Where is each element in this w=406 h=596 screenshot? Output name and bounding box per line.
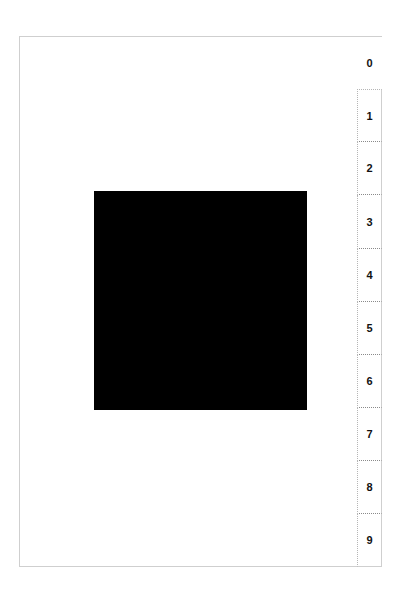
- tab-label: 7: [366, 428, 372, 440]
- tab-6[interactable]: 6: [357, 355, 382, 408]
- tab-2[interactable]: 2: [357, 142, 382, 195]
- tab-label: 8: [366, 481, 372, 493]
- tab-5[interactable]: 5: [357, 302, 382, 355]
- tab-label: 3: [366, 216, 372, 228]
- tab-7[interactable]: 7: [357, 408, 382, 461]
- tab-4[interactable]: 4: [357, 249, 382, 302]
- tab-label: 0: [366, 57, 372, 69]
- tab-8[interactable]: 8: [357, 461, 382, 514]
- tab-0[interactable]: 0: [357, 37, 382, 89]
- tab-label: 2: [366, 162, 372, 174]
- tab-9[interactable]: 9: [357, 514, 382, 567]
- tab-label: 5: [366, 322, 372, 334]
- tab-3[interactable]: 3: [357, 195, 382, 249]
- tab-label: 4: [366, 269, 372, 281]
- tab-label: 6: [366, 375, 372, 387]
- black-square-image: [94, 191, 307, 410]
- tab-label: 1: [366, 110, 372, 122]
- tab-1[interactable]: 1: [357, 89, 382, 142]
- tab-label: 9: [366, 534, 372, 546]
